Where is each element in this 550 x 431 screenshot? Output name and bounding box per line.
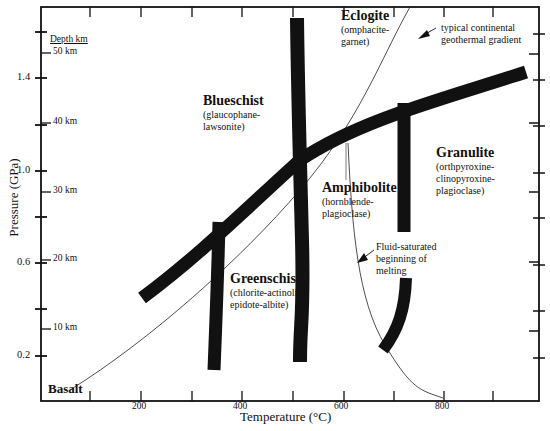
facies-minerals: clinopyroxine-: [436, 173, 495, 185]
facies-eclogite: Eclogite (omphacite- garnet): [341, 8, 389, 48]
annotation-line: Fluid-saturated: [376, 241, 437, 253]
facies-greenschist: Greenschist (chlorite-actinolite- epidot…: [230, 271, 308, 311]
facies-minerals: plagioclase): [322, 208, 397, 220]
depth-tick-50km: 50 km: [53, 46, 77, 56]
facies-minerals: (glaucophane-: [203, 109, 264, 121]
x-tick-400: 400: [233, 401, 247, 411]
facies-basalt: Basalt: [48, 382, 83, 397]
greenschist-blueschist-boundary: [214, 222, 219, 370]
facies-minerals: plagioclase): [436, 185, 495, 197]
facies-name: Amphibolite: [322, 180, 397, 196]
x-tick-200: 200: [132, 401, 146, 411]
facies-minerals: garnet): [341, 36, 389, 48]
facies-granulite: Granulite (orthpyroxine- clinopyroxine- …: [436, 145, 495, 197]
x-tick-800: 800: [435, 401, 449, 411]
facies-amphibolite: Amphibolite (hornblende- plagioclase): [322, 180, 397, 220]
y-tick-0.2: 0.2: [17, 349, 30, 360]
facies-name: Greenschist: [230, 271, 308, 287]
bottom-ticks: [90, 391, 493, 401]
facies-minerals: (omphacite-: [341, 24, 389, 36]
depth-tick-20km: 20 km: [53, 253, 77, 263]
facies-minerals: lawsonite): [203, 121, 264, 133]
x-tick-600: 600: [334, 401, 348, 411]
facies-minerals: epidote-albite): [230, 299, 308, 311]
depth-ticks: [41, 53, 51, 329]
y-tick-1.4: 1.4: [17, 71, 30, 82]
top-ticks: [90, 7, 493, 17]
facies-minerals: (orthpyroxine-: [436, 161, 495, 173]
annotation-line: geothermal gradient: [441, 34, 521, 46]
annotation-line: beginning of: [376, 253, 437, 265]
geotherm-arrow-icon: [418, 28, 436, 39]
melting-arrow-icon: [357, 250, 374, 263]
y-axis-label: Pressure (GPa): [7, 147, 22, 247]
facies-blueschist: Blueschist (glaucophane- lawsonite): [203, 93, 264, 133]
facies-minerals: (hornblende-: [322, 196, 397, 208]
depth-tick-30km: 30 km: [53, 185, 77, 195]
melting-annotation: Fluid-saturated beginning of melting: [376, 241, 437, 277]
depth-tick-40km: 40 km: [53, 116, 77, 126]
depth-tick-10km: 10 km: [53, 322, 77, 332]
depth-header: Depth km: [50, 34, 88, 44]
facies-name: Eclogite: [341, 8, 389, 24]
facies-name: Granulite: [436, 145, 495, 161]
annotation-line: typical continental: [441, 22, 521, 34]
geotherm-annotation: typical continental geothermal gradient: [441, 22, 521, 46]
facies-name: Blueschist: [203, 93, 264, 109]
facies-minerals: (chlorite-actinolite-: [230, 287, 308, 299]
y-tick-1.0: 1.0: [17, 164, 30, 175]
right-ticks: [529, 34, 545, 358]
facies-diagram-canvas: [0, 0, 550, 431]
plot-frame: [41, 7, 539, 401]
granulite-lower-boundary: [383, 278, 406, 350]
x-axis-label: Temperature (°C): [240, 410, 331, 425]
annotation-line: melting: [376, 265, 437, 277]
y-tick-0.6: 0.6: [17, 256, 30, 267]
